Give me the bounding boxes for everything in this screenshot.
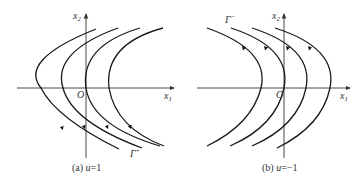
x1-axis-label-b: x1 — [339, 90, 348, 103]
gamma-plus-label: Γ+ — [129, 148, 140, 159]
gamma-minus-label: Γ− — [224, 13, 236, 25]
arrow-icon — [105, 125, 110, 130]
direction-arrows-b — [242, 46, 312, 51]
trajectories-a — [36, 28, 164, 149]
arrow-icon — [60, 126, 65, 131]
caption-b: (b) u=−1 — [262, 162, 297, 174]
x2-axis-label-a: x2 — [72, 10, 81, 23]
panel-a: x2 x1 O Γ+ (a) u=1 — [17, 10, 174, 174]
x2-axis-label-b: x2 — [271, 10, 280, 23]
arrow-icon — [308, 46, 312, 51]
phase-portrait-diagram: x2 x1 O Γ+ (a) u=1 x2 x1 O Γ− (b) u=−1 — [0, 0, 362, 185]
caption-a: (a) u=1 — [72, 162, 101, 174]
panel-b: x2 x1 O Γ− (b) u=−1 — [197, 10, 350, 174]
origin-label-b: O — [276, 89, 283, 100]
origin-label-a: O — [77, 89, 84, 100]
x1-axis-label-a: x1 — [163, 90, 172, 103]
